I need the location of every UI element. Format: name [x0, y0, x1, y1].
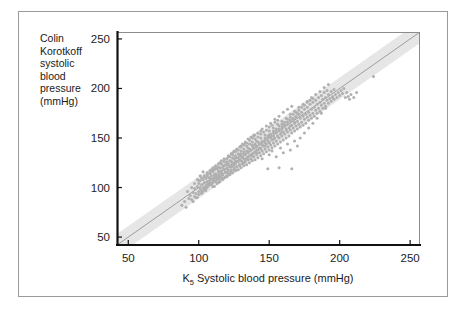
scatter-point	[187, 197, 190, 200]
scatter-point	[196, 178, 199, 181]
scatter-point	[300, 111, 303, 114]
scatter-point	[286, 108, 289, 111]
scatter-point	[314, 99, 317, 102]
scatter-point	[285, 137, 288, 140]
scatter-point	[345, 91, 348, 94]
scatter-point	[292, 113, 295, 116]
scatter-point	[372, 75, 375, 78]
scatter-point	[297, 106, 300, 109]
scatter-point	[297, 113, 300, 116]
scatter-point	[309, 103, 312, 106]
scatter-point	[320, 104, 323, 107]
scatter-point	[265, 150, 268, 153]
scatter-point	[325, 99, 328, 102]
scatter-point	[271, 149, 274, 152]
scatter-point	[290, 105, 293, 108]
scatter-point	[180, 204, 183, 207]
scatter-point	[328, 97, 331, 100]
scatter-point	[303, 118, 306, 121]
scatter-point	[244, 158, 247, 161]
scatter-point	[238, 164, 241, 167]
scatter-point	[235, 165, 238, 168]
scatter-point	[196, 196, 199, 199]
scatter-point	[299, 117, 302, 120]
y-axis-tick-label: 250	[91, 33, 110, 45]
scatter-point	[276, 119, 279, 122]
scatter-point	[311, 112, 314, 115]
scatter-point	[307, 119, 310, 122]
scatter-point	[186, 190, 189, 193]
scatter-point	[263, 137, 266, 140]
scatter-point	[221, 178, 224, 181]
scatter-point	[193, 182, 196, 185]
x-axis-title: K5 Systolic blood pressure (mmHg)	[182, 272, 353, 287]
scatter-point	[251, 159, 254, 162]
scatter-point	[307, 127, 310, 130]
scatter-point	[262, 152, 265, 155]
scatter-point	[278, 166, 281, 169]
scatter-point	[317, 96, 320, 99]
scatter-point	[278, 130, 281, 133]
scatter-point	[317, 107, 320, 110]
scatter-point	[263, 134, 266, 137]
scatter-point	[247, 158, 250, 161]
scatter-point	[217, 169, 220, 172]
scatter-point	[261, 143, 264, 146]
scatter-point	[289, 113, 292, 116]
scatter-point	[248, 161, 251, 164]
scatter-point	[217, 181, 220, 184]
scatter-point	[214, 179, 217, 182]
scatter-point	[211, 181, 214, 184]
scatter-point	[340, 89, 343, 92]
y-axis-title-line: blood	[40, 70, 66, 82]
scatter-point	[352, 96, 355, 99]
scatter-point	[324, 107, 327, 110]
scatter-point	[242, 147, 245, 150]
scatter-point	[342, 87, 345, 90]
scatter-point	[310, 117, 313, 120]
scatter-point	[265, 125, 268, 128]
scatter-point	[321, 107, 324, 110]
scatter-point	[245, 149, 248, 152]
x-axis-tick-label: 200	[330, 252, 349, 264]
scatter-point	[225, 163, 228, 166]
scatter-point	[189, 194, 192, 197]
x-axis-tick-label: 50	[122, 252, 135, 264]
scatter-point	[272, 130, 275, 133]
scatter-point	[278, 115, 281, 118]
scatter-point	[225, 175, 228, 178]
scatter-point	[252, 135, 255, 138]
scatter-point	[299, 126, 302, 129]
scatter-point	[318, 90, 321, 93]
scatter-point	[286, 142, 289, 145]
scatter-point	[289, 125, 292, 128]
scatter-point	[196, 185, 199, 188]
scatter-point	[302, 103, 305, 106]
scatter-point	[296, 128, 299, 131]
scatter-point	[330, 100, 333, 103]
scatter-point	[311, 101, 314, 104]
scatter-point	[294, 125, 297, 128]
scatter-point	[242, 164, 245, 167]
scatter-point	[237, 168, 240, 171]
scatter-point	[276, 142, 279, 145]
scatter-point	[309, 99, 312, 102]
scatter-point	[323, 91, 326, 94]
scatter-point	[303, 108, 306, 111]
scatter-point	[197, 193, 200, 196]
scatter-point	[293, 121, 296, 124]
scatter-point	[297, 109, 300, 112]
scatter-point	[331, 96, 334, 99]
scatter-point	[344, 96, 347, 99]
scatter-point	[279, 146, 282, 149]
scatter-point	[225, 166, 228, 169]
scatter-point	[272, 141, 275, 144]
scatter-point	[235, 148, 238, 151]
scatter-point	[213, 173, 216, 176]
scatter-point	[199, 174, 202, 177]
scatter-point	[300, 106, 303, 109]
scatter-point	[306, 100, 309, 103]
scatter-point	[285, 128, 288, 131]
scatter-point	[217, 165, 220, 168]
scatter-point	[303, 132, 306, 135]
